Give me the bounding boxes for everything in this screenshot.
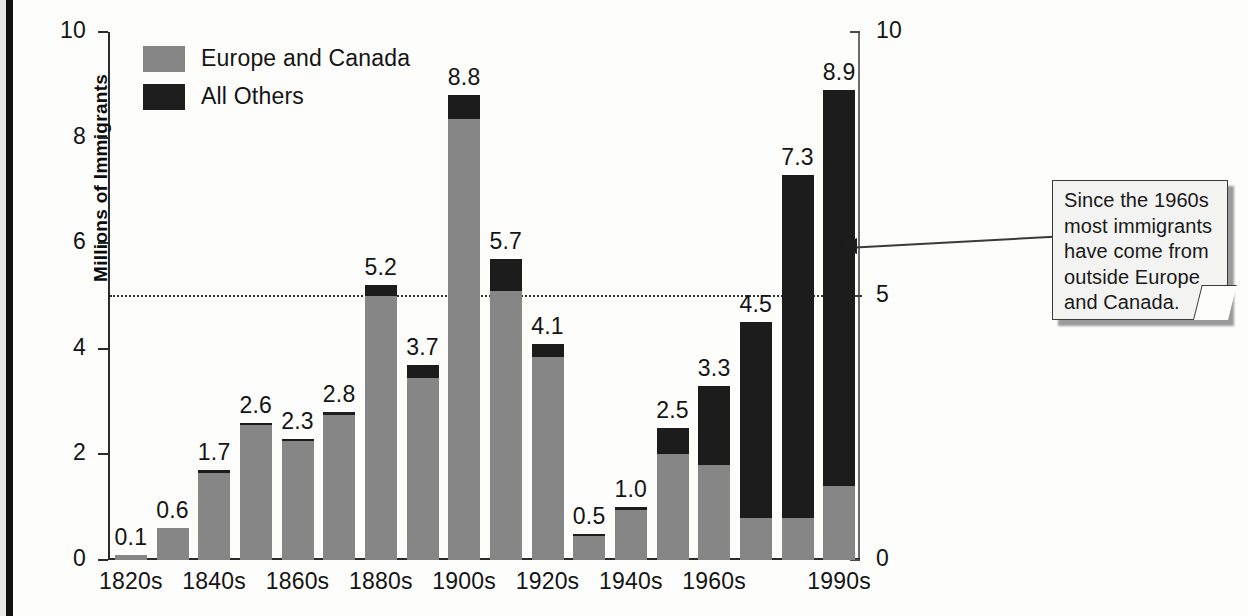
bar-1910s	[490, 259, 522, 560]
legend-swatch-icon-all-others	[143, 84, 185, 110]
y-tick-label-left: 0	[36, 545, 86, 572]
y-tick-label-left: 6	[36, 228, 86, 255]
x-axis-label-1840s: 1840s	[169, 568, 259, 595]
bar-segment-all-others	[365, 285, 397, 296]
bar-1970s	[740, 322, 772, 560]
bar-segment-all-others	[532, 344, 564, 357]
bar-segment-europe-canada	[198, 473, 230, 560]
bar-value-label: 8.8	[434, 64, 494, 91]
y-tick-left	[98, 348, 108, 350]
bar-segment-all-others	[573, 534, 605, 537]
bar-segment-all-others	[198, 470, 230, 473]
y-tick-left	[98, 453, 108, 455]
chart-page: Millions of Immigrants 0246810 0510 0.10…	[0, 0, 1248, 616]
bar-1990s	[823, 90, 855, 560]
bar-1820s	[115, 555, 147, 560]
legend-label-all-others: All Others	[201, 83, 304, 110]
bar-value-label: 0.1	[101, 524, 161, 551]
bar-1900s	[448, 95, 480, 560]
bar-value-label: 2.5	[643, 397, 703, 424]
bar-1860s	[282, 439, 314, 560]
bar-segment-all-others	[615, 507, 647, 510]
x-axis-label-1940s: 1940s	[586, 568, 676, 595]
bar-1870s	[323, 412, 355, 560]
callout-box: Since the 1960s most immigrants have com…	[1052, 180, 1228, 320]
bar-segment-europe-canada	[615, 510, 647, 560]
bar-segment-europe-canada	[782, 518, 814, 560]
bar-1980s	[782, 175, 814, 560]
bar-value-label: 3.3	[684, 355, 744, 382]
bar-segment-all-others	[323, 412, 355, 415]
y-tick-left	[98, 242, 108, 244]
bar-1830s	[157, 528, 189, 560]
bar-segment-europe-canada	[157, 528, 189, 560]
bar-1960s	[698, 386, 730, 560]
bar-value-label: 1.7	[184, 439, 244, 466]
bar-segment-all-others	[782, 175, 814, 518]
bar-segment-europe-canada	[448, 119, 480, 560]
bar-value-label: 1.0	[601, 476, 661, 503]
y-tick-left	[98, 137, 108, 139]
y-tick-label-left: 4	[36, 334, 86, 361]
bar-segment-all-others	[448, 95, 480, 119]
bar-segment-europe-canada	[823, 486, 855, 560]
bar-value-label: 8.9	[809, 59, 869, 86]
chart-legend: Europe and Canada All Others	[143, 45, 410, 121]
bar-1940s	[615, 507, 647, 560]
bar-segment-europe-canada	[740, 518, 772, 560]
bar-segment-all-others	[490, 259, 522, 291]
bar-1840s	[198, 470, 230, 560]
x-axis-label-1820s: 1820s	[86, 568, 176, 595]
bar-1930s	[573, 534, 605, 560]
y-tick-label-left: 2	[36, 439, 86, 466]
x-axis-label-1900s: 1900s	[419, 568, 509, 595]
bar-value-label: 7.3	[768, 144, 828, 171]
bar-segment-europe-canada	[698, 465, 730, 560]
bar-value-label: 0.6	[143, 497, 203, 524]
bar-value-label: 0.5	[559, 503, 619, 530]
page-gutter-black-bar	[6, 0, 13, 616]
callout-leader-line	[846, 236, 1054, 249]
bar-value-label: 5.7	[476, 228, 536, 255]
y-tick-label-right: 5	[876, 281, 926, 308]
legend-item-all-others: All Others	[143, 83, 410, 110]
y-tick-label-left: 10	[36, 17, 86, 44]
bar-segment-europe-canada	[657, 454, 689, 560]
bar-segment-all-others	[740, 322, 772, 517]
bar-segment-europe-canada	[573, 536, 605, 560]
bar-segment-all-others	[657, 428, 689, 454]
bar-segment-all-others	[823, 90, 855, 486]
x-axis-label-1880s: 1880s	[336, 568, 426, 595]
y-tick-label-right: 10	[876, 17, 926, 44]
bar-value-label: 4.5	[726, 291, 786, 318]
bar-segment-all-others	[407, 365, 439, 378]
bar-1880s	[365, 285, 397, 560]
legend-label-europe-canada: Europe and Canada	[201, 45, 410, 72]
x-axis-label-1920s: 1920s	[503, 568, 593, 595]
cut-off-caption	[30, 600, 730, 616]
legend-swatch-icon-europe-canada	[143, 46, 185, 72]
bar-segment-europe-canada	[407, 378, 439, 560]
bar-value-label: 5.2	[351, 254, 411, 281]
bar-value-label: 2.3	[268, 408, 328, 435]
y-tick-left	[98, 31, 108, 33]
bar-segment-europe-canada	[240, 425, 272, 560]
x-axis-label-1860s: 1860s	[253, 568, 343, 595]
bar-1850s	[240, 423, 272, 560]
bar-segment-europe-canada	[115, 555, 147, 560]
bar-value-label: 3.7	[393, 334, 453, 361]
bar-segment-all-others	[698, 386, 730, 465]
x-axis-label-1960s: 1960s	[669, 568, 759, 595]
y-tick-label-left: 8	[36, 123, 86, 150]
bar-segment-europe-canada	[323, 415, 355, 560]
bar-1890s	[407, 365, 439, 560]
bar-segment-europe-canada	[282, 441, 314, 560]
x-axis-label-1990s: 1990s	[794, 568, 884, 595]
legend-item-europe-canada: Europe and Canada	[143, 45, 410, 72]
bar-value-label: 4.1	[518, 313, 578, 340]
callout-arrow-icon	[838, 238, 857, 254]
y-tick-left	[98, 559, 108, 561]
bar-value-label: 2.8	[309, 381, 369, 408]
bar-1950s	[657, 428, 689, 560]
bar-segment-all-others	[282, 439, 314, 442]
